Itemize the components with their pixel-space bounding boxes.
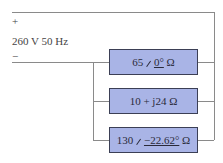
branch2-right-wire <box>198 101 214 102</box>
impedance-box-2: 10 + j24 Ω <box>109 88 198 114</box>
branch3-left-wire <box>93 140 109 141</box>
bottom-wire <box>12 62 109 63</box>
impedance-3-unit: Ω <box>182 134 190 146</box>
branch2-left-wire <box>93 101 109 102</box>
branch3-right-wire <box>198 140 214 141</box>
top-wire <box>12 12 214 13</box>
right-bus <box>214 12 215 140</box>
impedance-2-value: 10 + j24 Ω <box>130 95 178 107</box>
impedance-1-unit: Ω <box>167 56 175 68</box>
impedance-box-1: 65 0° Ω <box>109 49 198 75</box>
impedance-1-angle: 0° <box>146 56 164 68</box>
impedance-box-3: 130 −22.62° Ω <box>109 127 198 153</box>
plus-terminal-label: + <box>12 15 18 27</box>
minus-terminal-label: − <box>12 50 18 62</box>
source-label: 260 V 50 Hz <box>12 35 68 47</box>
impedance-3-angle: −22.62° <box>136 134 179 146</box>
impedance-1-magnitude: 65 <box>132 56 143 68</box>
branch1-right-wire <box>198 62 214 63</box>
impedance-3-magnitude: 130 <box>117 134 134 146</box>
